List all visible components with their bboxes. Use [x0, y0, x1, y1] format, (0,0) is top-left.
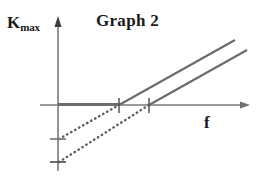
y-axis-label-main: K — [7, 13, 20, 32]
data-line-1-extrapolation — [59, 105, 119, 139]
chart-title: Graph 2 — [96, 12, 159, 29]
x-axis-arrowhead — [240, 101, 250, 108]
graph-figure: Graph 2 Kmax f — [0, 0, 258, 178]
data-line-1 — [119, 40, 235, 105]
y-axis-arrowhead — [55, 16, 62, 27]
x-axis-label: f — [204, 114, 210, 131]
y-axis-label: Kmax — [7, 14, 40, 31]
y-axis-label-subscript: max — [20, 21, 40, 33]
data-line-2 — [149, 50, 247, 105]
